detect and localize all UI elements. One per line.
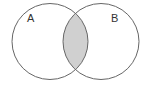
set-b-label: B (111, 12, 118, 24)
venn-diagram: A B (0, 0, 147, 85)
set-a-label: A (27, 12, 35, 24)
